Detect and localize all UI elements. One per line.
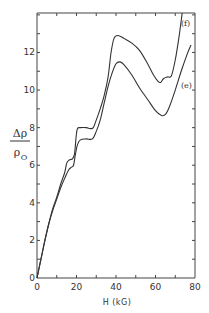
y-tick-label: 10 [24, 85, 36, 95]
tick-labels: 020406080024681012 [24, 47, 201, 292]
curve-e [37, 45, 191, 278]
y-axis-label-subscript: O [21, 153, 28, 162]
y-tick-label: 6 [29, 160, 35, 170]
x-tick-label: 0 [34, 282, 40, 292]
plot-frame [37, 13, 195, 278]
chart: 020406080024681012 H (kG) Δρ ρ O (f) (e) [0, 0, 209, 313]
curve-f [37, 13, 182, 278]
x-tick-label: 20 [71, 282, 83, 292]
y-axis-label-denominator: ρ [14, 146, 20, 159]
y-tick-label: 2 [29, 235, 35, 245]
y-tick-label: 0 [29, 273, 35, 283]
curves [37, 13, 191, 278]
y-tick-label: 12 [24, 47, 35, 57]
y-tick-label: 4 [29, 198, 35, 208]
y-axis-label: Δρ ρ O [10, 127, 30, 162]
curve-label-f: (f) [181, 19, 190, 28]
ticks [37, 13, 195, 278]
y-axis-label-numerator: Δρ [13, 127, 27, 140]
x-tick-label: 40 [110, 282, 122, 292]
x-axis-label: H (kG) [103, 298, 132, 307]
x-tick-label: 80 [189, 282, 201, 292]
x-tick-label: 60 [150, 282, 162, 292]
curve-label-e: (e) [181, 81, 192, 90]
y-tick-label: 8 [29, 123, 35, 133]
